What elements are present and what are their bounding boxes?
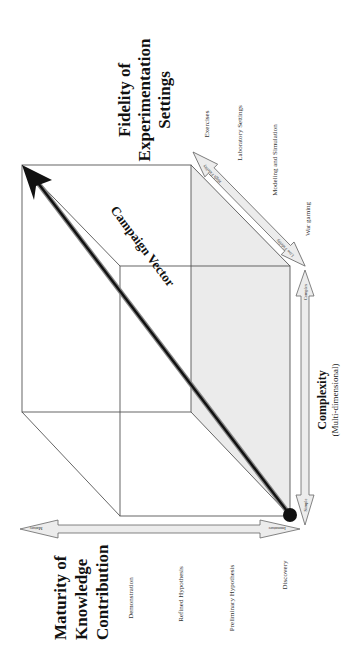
complexity-arrow [296, 270, 314, 525]
complexity-title: Complexity [315, 370, 329, 429]
complexity-high-label: Complex [303, 283, 308, 300]
fidelity-level-modeling-simulation: Modeling and Simulation [271, 124, 279, 196]
knowledge-campaign-cube-diagram: Campaign Vector Mature Immature Complex … [0, 0, 359, 658]
maturity-level-preliminary-hypothesis: Preliminary Hypothesis [228, 565, 236, 632]
maturity-level-demonstration: Demonstration [127, 577, 135, 619]
complexity-low-label: Simple [303, 499, 308, 512]
origin-dot-icon [283, 508, 297, 522]
maturity-low-label: Immature [268, 526, 286, 531]
maturity-title-line3: Contribution [93, 544, 112, 640]
maturity-high-label: Mature [30, 526, 43, 531]
fidelity-title: Fidelity of Experimentation Settings [115, 38, 174, 161]
maturity-title-line1: Maturity of [51, 555, 70, 640]
fidelity-title-line2: Experimentation [135, 38, 154, 161]
fidelity-level-laboratory-settings: Laboratory Settings [236, 105, 244, 161]
maturity-level-discovery: Discovery [281, 560, 289, 589]
complexity-subtitle: (Multi-dimensional) [330, 364, 340, 437]
fidelity-title-line3: Settings [155, 71, 174, 129]
maturity-arrow [20, 520, 300, 538]
fidelity-title-line1: Fidelity of [115, 63, 134, 137]
fidelity-level-war-gaming: War gaming [304, 201, 312, 236]
maturity-level-refined-hypothesis: Refined Hypothesis [177, 566, 185, 622]
maturity-title-line2: Knowledge [72, 558, 91, 640]
cube-edge-bottom-left [22, 412, 120, 516]
fidelity-level-exercises: Exercises [203, 110, 211, 137]
